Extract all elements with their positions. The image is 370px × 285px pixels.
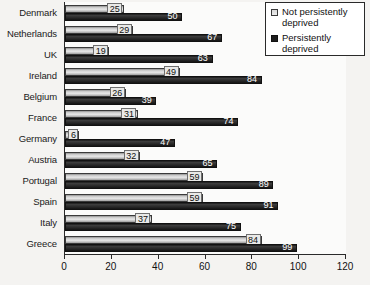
x-axis-tick-label: 120 bbox=[337, 261, 354, 272]
bar-dark bbox=[65, 202, 278, 210]
category-label: Greece bbox=[0, 239, 57, 249]
category-label: Netherlands bbox=[0, 29, 57, 39]
bar-value-label: 99 bbox=[281, 242, 294, 252]
bar-group: 3174 bbox=[65, 107, 346, 128]
category-label: Austria bbox=[0, 155, 57, 165]
bar-group: 3265 bbox=[65, 149, 346, 170]
bar-dark bbox=[65, 223, 241, 231]
bar-dark bbox=[65, 244, 297, 252]
category-label: Spain bbox=[0, 197, 57, 207]
x-axis-tick bbox=[111, 254, 112, 259]
bar-dark bbox=[65, 118, 238, 126]
category-label: Denmark bbox=[0, 8, 57, 18]
category-label: Italy bbox=[0, 218, 57, 228]
legend-label: Not persistently deprived bbox=[282, 7, 361, 28]
legend-item-not-persistently-deprived: Not persistently deprived bbox=[271, 7, 361, 28]
bar-light bbox=[65, 236, 262, 244]
category-label: France bbox=[0, 113, 57, 123]
bar-value-label: 84 bbox=[246, 74, 259, 84]
x-axis: 020406080100120 bbox=[64, 254, 345, 282]
bar-light bbox=[65, 173, 203, 181]
x-axis-tick bbox=[205, 254, 206, 259]
legend-label: Persistently deprived bbox=[282, 33, 361, 54]
bar-value-label: 74 bbox=[222, 116, 235, 126]
x-axis-tick-label: 60 bbox=[199, 261, 210, 272]
x-axis-tick bbox=[251, 254, 252, 259]
bar-value-label: 47 bbox=[159, 137, 172, 147]
bar-group: 647 bbox=[65, 128, 346, 149]
category-label: Germany bbox=[0, 134, 57, 144]
bar-value-label: 67 bbox=[206, 32, 219, 42]
category-label: UK bbox=[0, 50, 57, 60]
x-axis-tick-label: 100 bbox=[290, 261, 307, 272]
bar-group: 2639 bbox=[65, 86, 346, 107]
x-axis-tick bbox=[64, 254, 65, 259]
bar-group: 8499 bbox=[65, 233, 346, 254]
bar-value-label: 65 bbox=[201, 158, 214, 168]
category-label: Ireland bbox=[0, 71, 57, 81]
x-axis-tick bbox=[158, 254, 159, 259]
bar-light bbox=[65, 194, 203, 202]
bar-value-label: 50 bbox=[166, 11, 179, 21]
x-axis-tick-label: 0 bbox=[61, 261, 67, 272]
bar-value-label: 91 bbox=[262, 200, 275, 210]
legend-item-persistently-deprived: Persistently deprived bbox=[271, 33, 361, 54]
category-label: Portugal bbox=[0, 176, 57, 186]
bar-value-label: 63 bbox=[196, 53, 209, 63]
x-axis-tick bbox=[345, 254, 346, 259]
bar-dark bbox=[65, 160, 217, 168]
bar-dark bbox=[65, 181, 273, 189]
x-axis-tick-label: 80 bbox=[246, 261, 257, 272]
bar-group: 5991 bbox=[65, 191, 346, 212]
dark-square-icon bbox=[271, 35, 278, 42]
light-square-icon bbox=[271, 9, 278, 16]
bar-dark bbox=[65, 76, 262, 84]
bar-group: 3775 bbox=[65, 212, 346, 233]
x-axis-tick bbox=[298, 254, 299, 259]
bar-dark bbox=[65, 34, 222, 42]
category-label: Belgium bbox=[0, 92, 57, 102]
bar-group: 4984 bbox=[65, 65, 346, 86]
category-axis-labels: DenmarkNetherlandsUKIrelandBelgiumFrance… bbox=[0, 2, 60, 254]
bar-chart: DenmarkNetherlandsUKIrelandBelgiumFrance… bbox=[0, 0, 370, 285]
bar-dark bbox=[65, 55, 213, 63]
chart-legend: Not persistently deprived Persistently d… bbox=[265, 2, 365, 56]
bar-group: 5989 bbox=[65, 170, 346, 191]
x-axis-tick-label: 40 bbox=[152, 261, 163, 272]
x-axis-tick-label: 20 bbox=[105, 261, 116, 272]
bar-value-label: 39 bbox=[140, 95, 153, 105]
bar-light bbox=[65, 68, 180, 76]
bar-value-label: 75 bbox=[224, 221, 237, 231]
bar-value-label: 89 bbox=[257, 179, 270, 189]
bar-dark bbox=[65, 13, 182, 21]
